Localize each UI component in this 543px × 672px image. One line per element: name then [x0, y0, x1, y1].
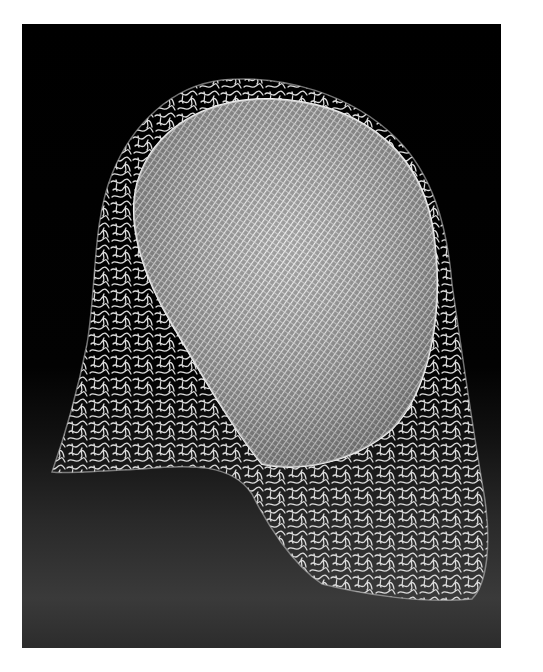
sculpture-illustration	[22, 24, 501, 648]
sculpture-photo	[22, 24, 501, 648]
